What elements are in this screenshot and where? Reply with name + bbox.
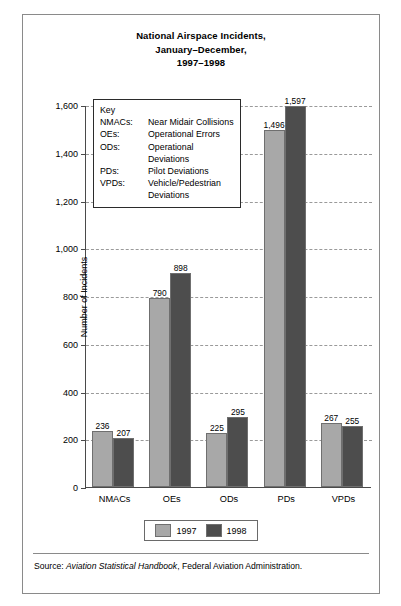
x-axis-label-nmacs: NMACs: [86, 494, 143, 504]
source-italic-title: Aviation Statistical Handbook: [66, 561, 177, 571]
bar-nmacs-1997: 236: [92, 431, 113, 487]
bar-group: 1,4961,597PDs: [258, 106, 315, 487]
key-description: Operational Deviations: [148, 141, 235, 165]
bar-value-label: 1,597: [285, 96, 306, 106]
bar-vpds-1998: 255: [342, 426, 363, 487]
legend-swatch-1998: [206, 524, 222, 537]
legend-item-1998: 1998: [206, 524, 247, 537]
bar-oes-1998: 898: [170, 273, 191, 487]
y-axis-label: 200: [32, 435, 78, 445]
key-rows: NMACs:Near Midair CollisionsOEs:Operatio…: [100, 116, 235, 201]
key-entry: VPDs:Vehicle/Pedestrian Deviations: [100, 177, 235, 201]
bar-oes-1997: 790: [149, 298, 170, 487]
key-entry: ODs:Operational Deviations: [100, 141, 235, 165]
key-description: Pilot Deviations: [148, 165, 235, 177]
key-description: Operational Errors: [148, 128, 235, 140]
bar-vpds-1997: 267: [321, 423, 342, 487]
legend-label: 1998: [227, 526, 247, 536]
title-line-2: January–December,: [23, 43, 379, 57]
bar-value-label: 295: [231, 407, 245, 417]
y-axis-label: 600: [32, 340, 78, 350]
y-axis-label: 400: [32, 388, 78, 398]
bar-value-label: 267: [324, 413, 338, 423]
bar-value-label: 225: [210, 423, 224, 433]
key-abbreviation: OEs:: [100, 128, 148, 140]
key-title: Key: [100, 104, 235, 116]
y-axis-label: 800: [32, 292, 78, 302]
key-box: Key NMACs:Near Midair CollisionsOEs:Oper…: [93, 99, 241, 208]
bar-value-label: 1,496: [264, 120, 285, 130]
bar-pds-1998: 1,597: [285, 106, 306, 487]
title-line-3: 1997–1998: [23, 56, 379, 70]
legend-swatch-1997: [155, 524, 171, 537]
y-axis-label: 1,600: [32, 101, 78, 111]
bar-ods-1997: 225: [206, 433, 227, 487]
x-axis-label-vpds: VPDs: [315, 494, 372, 504]
bar-value-label: 207: [117, 428, 131, 438]
legend-item-1997: 1997: [155, 524, 196, 537]
bar-value-label: 255: [345, 416, 359, 426]
bar-value-label: 898: [174, 263, 188, 273]
y-axis-label: 1,000: [32, 244, 78, 254]
key-abbreviation: VPDs:: [100, 177, 148, 201]
y-axis-label: 0: [32, 483, 78, 493]
source-suffix: , Federal Aviation Administration.: [177, 561, 302, 571]
y-axis-tick: [81, 488, 86, 489]
y-axis-label: 1,200: [32, 197, 78, 207]
key-abbreviation: NMACs:: [100, 116, 148, 128]
bar-pds-1997: 1,496: [264, 130, 285, 487]
source-note: Source: Aviation Statistical Handbook, F…: [34, 561, 302, 571]
legend-inner: 19971998: [144, 520, 257, 541]
chart-title: National Airspace Incidents, January–Dec…: [23, 29, 379, 70]
x-axis-label-oes: OEs: [143, 494, 200, 504]
key-abbreviation: ODs:: [100, 141, 148, 165]
bar-value-label: 790: [153, 288, 167, 298]
y-axis-label: 1,400: [32, 149, 78, 159]
key-entry: PDs:Pilot Deviations: [100, 165, 235, 177]
key-description: Near Midair Collisions: [148, 116, 235, 128]
key-description: Vehicle/Pedestrian Deviations: [148, 177, 235, 201]
source-prefix: Source:: [34, 561, 66, 571]
title-line-1: National Airspace Incidents,: [23, 29, 379, 43]
key-entry: NMACs:Near Midair Collisions: [100, 116, 235, 128]
chart-figure: National Airspace Incidents, January–Dec…: [22, 14, 380, 594]
key-abbreviation: PDs:: [100, 165, 148, 177]
x-axis-label-pds: PDs: [258, 494, 315, 504]
x-axis-label-ods: ODs: [200, 494, 257, 504]
legend-label: 1997: [176, 526, 196, 536]
bar-ods-1998: 295: [227, 417, 248, 487]
bar-nmacs-1998: 207: [113, 438, 134, 487]
source-divider: [33, 553, 369, 554]
bar-value-label: 236: [96, 421, 110, 431]
chart-legend: 19971998: [23, 520, 379, 541]
key-entry: OEs:Operational Errors: [100, 128, 235, 140]
bar-group: 267255VPDs: [315, 106, 372, 487]
